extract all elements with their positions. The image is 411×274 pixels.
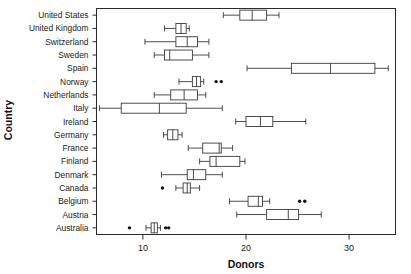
box-plot-australia <box>128 223 171 233</box>
box-iqr <box>267 210 299 220</box>
box-iqr <box>246 117 273 127</box>
box-plot-austria <box>237 210 322 220</box>
y-tick-label: Sweden <box>58 50 89 60</box>
y-tick-label: France <box>62 143 88 153</box>
box-iqr <box>176 37 198 47</box>
box-plot-netherlands <box>154 90 206 100</box>
y-tick-label: Germany <box>54 130 89 140</box>
box-plot-france <box>188 143 232 153</box>
y-tick-label: United Kingdom <box>29 23 89 33</box>
box-plot-sweden <box>154 50 209 60</box>
y-tick-label: Austria <box>62 210 88 220</box>
box-plot-united-states <box>223 10 279 20</box>
box-plot-united-kingdom <box>165 23 190 33</box>
box-iqr <box>187 170 206 180</box>
y-tick-label: Spain <box>67 63 89 73</box>
box-iqr <box>203 143 222 153</box>
box-plot-finland <box>200 156 245 166</box>
y-tick-label: Australia <box>56 223 89 233</box>
outlier-point <box>303 200 306 203</box>
box-iqr <box>291 63 375 73</box>
box-plot-ireland <box>236 117 306 127</box>
outlier-point <box>164 226 167 229</box>
x-tick-label: 10 <box>138 243 148 253</box>
x-axis-title: Donors <box>228 258 265 270</box>
boxplot-figure: Country United StatesUnited KingdomSwitz… <box>0 0 411 274</box>
y-tick-label: Ireland <box>63 117 89 127</box>
box-iqr <box>240 10 267 20</box>
chart-canvas: Country United StatesUnited KingdomSwitz… <box>0 0 411 274</box>
box-iqr <box>121 103 186 113</box>
x-tick-label: 20 <box>241 243 251 253</box>
outlier-point <box>298 200 301 203</box>
y-tick-label: Canada <box>59 183 89 193</box>
box-iqr <box>165 50 193 60</box>
x-tick-label: 30 <box>344 243 354 253</box>
y-tick-label: Denmark <box>55 170 90 180</box>
y-axis-title-text: Country <box>2 100 14 140</box>
box-plot-denmark <box>161 170 222 180</box>
x-axis-ticks <box>143 235 349 240</box>
box-plots-layer <box>100 10 389 233</box>
y-tick-label: Switzerland <box>45 37 89 47</box>
box-plot-germany <box>164 130 183 140</box>
y-tick-label: Italy <box>73 103 89 113</box>
box-iqr <box>183 183 190 193</box>
box-plot-italy <box>100 103 223 113</box>
y-tick-label: Norway <box>60 77 89 87</box>
x-axis-title-text: Donors <box>228 258 265 270</box>
outlier-point <box>214 80 217 83</box>
y-tick-label: Belgium <box>58 196 88 206</box>
box-plot-norway <box>179 77 223 87</box>
x-tick-labels: 102030 <box>138 243 354 253</box>
box-iqr <box>248 196 262 206</box>
box-plot-spain <box>247 63 388 73</box>
box-plot-switzerland <box>145 37 209 47</box>
outlier-point <box>220 80 223 83</box>
box-plot-belgium <box>230 196 307 206</box>
box-plot-canada <box>161 183 200 193</box>
outlier-point <box>128 226 131 229</box>
y-tick-label: Netherlands <box>43 90 88 100</box>
y-tick-label: Finland <box>61 156 89 166</box>
box-iqr <box>210 156 240 166</box>
y-axis-title: Country <box>2 100 14 140</box>
y-axis-ticks <box>93 15 97 228</box>
y-tick-labels: United StatesUnited KingdomSwitzerlandSw… <box>29 10 89 233</box>
outlier-point <box>167 226 170 229</box>
y-tick-label: United States <box>38 10 88 20</box>
outlier-point <box>161 186 164 189</box>
